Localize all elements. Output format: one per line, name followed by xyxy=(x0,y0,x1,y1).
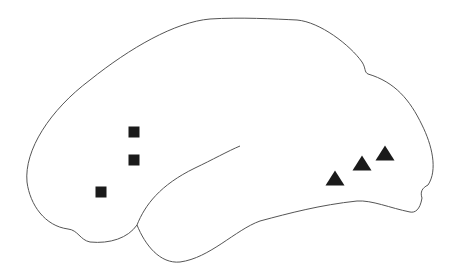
brain-outline xyxy=(27,18,433,262)
square-marker-icon xyxy=(129,155,140,166)
diagram-svg xyxy=(0,0,458,275)
triangle-marker-icon xyxy=(326,171,345,186)
lateral-sulcus xyxy=(137,146,240,225)
triangle-markers xyxy=(326,146,395,186)
brain-diagram xyxy=(0,0,458,275)
triangle-marker-icon xyxy=(353,156,372,171)
square-marker-icon xyxy=(129,127,140,138)
square-markers xyxy=(96,127,140,198)
square-marker-icon xyxy=(96,187,107,198)
triangle-marker-icon xyxy=(376,146,395,161)
